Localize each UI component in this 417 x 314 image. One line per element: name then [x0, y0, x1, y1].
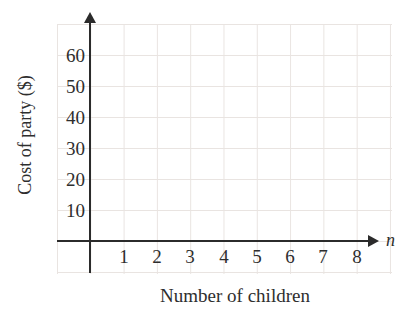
x-tick-label-5: 5 [245, 246, 269, 267]
x-axis-variable-label: n [386, 230, 395, 251]
x-tick-label-3: 3 [178, 246, 202, 267]
y-tick-label-40: 40 [49, 107, 85, 128]
y-tick-label-60: 60 [49, 45, 85, 66]
x-tick-label-4: 4 [212, 246, 236, 267]
x-tick-label-6: 6 [278, 246, 302, 267]
x-axis-arrow-icon [368, 235, 379, 247]
y-axis-line [89, 20, 91, 273]
y-axis-arrow-icon [84, 12, 96, 23]
x-axis-title: Number of children [160, 285, 310, 307]
y-tick-label-50: 50 [49, 76, 85, 97]
grid-area [57, 24, 392, 274]
y-tick-label-10: 10 [49, 200, 85, 221]
x-tick-label-1: 1 [112, 246, 136, 267]
x-tick-label-7: 7 [311, 246, 335, 267]
y-tick-label-20: 20 [49, 169, 85, 190]
y-tick-label-30: 30 [49, 138, 85, 159]
y-axis-title: Cost of party ($) [15, 75, 36, 194]
x-tick-label-2: 2 [145, 246, 169, 267]
coordinate-grid-figure: 60 50 40 30 20 10 1 2 3 4 5 6 7 8 Cost o… [0, 0, 417, 314]
x-tick-label-8: 8 [345, 246, 369, 267]
x-axis-line [57, 240, 370, 242]
